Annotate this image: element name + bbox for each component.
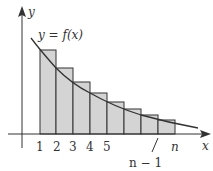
rectangles (40, 50, 175, 134)
bar-3 (73, 82, 90, 134)
bar-1 (40, 50, 56, 134)
y-axis-label: y (28, 6, 35, 18)
n-minus-1-pointer (152, 138, 158, 152)
curve-label: y = f(x) (38, 29, 83, 41)
tick-2: 2 (53, 141, 61, 153)
tick-n-minus-1: n − 1 (129, 157, 162, 169)
tick-n: n (171, 141, 179, 153)
tick-5: 5 (103, 141, 111, 153)
x-axis-label: x (202, 140, 209, 152)
tick-3: 3 (69, 141, 77, 153)
tick-4: 4 (86, 141, 94, 153)
bar-2 (56, 68, 73, 134)
bar-5 (107, 102, 124, 134)
tick-1: 1 (36, 141, 44, 153)
bar-4 (90, 93, 107, 134)
